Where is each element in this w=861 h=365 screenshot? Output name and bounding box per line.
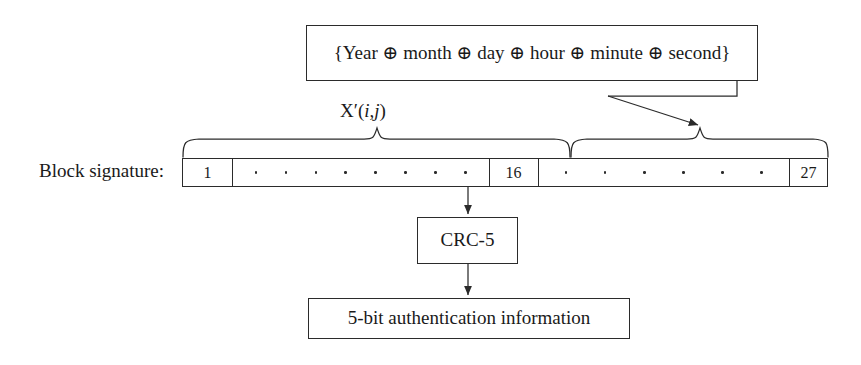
ellipsis-dot xyxy=(565,171,568,174)
brace-timestamp-segment xyxy=(571,128,828,157)
brace-x-prime xyxy=(183,128,570,157)
ellipsis-dot xyxy=(344,171,347,174)
signature-cell-start: 1 xyxy=(183,159,232,186)
x-prime-prefix: X′( xyxy=(340,100,364,121)
signature-cell-end: 27 xyxy=(789,159,827,186)
x-prime-label: X′(i,j) xyxy=(340,100,386,122)
crc5-text: CRC-5 xyxy=(441,230,495,251)
signature-cell-dots-left xyxy=(232,159,489,186)
timestamp-expression-box: {Year ⊕ month ⊕ day ⊕ hour ⊕ minute ⊕ se… xyxy=(306,25,758,81)
ellipsis-dot xyxy=(604,171,607,174)
ellipsis-dot xyxy=(464,171,467,174)
ellipsis-dot xyxy=(315,171,318,174)
ellipsis-dot xyxy=(721,171,724,174)
signature-cell-sixteen-value: 16 xyxy=(506,164,522,182)
signature-cell-start-value: 1 xyxy=(204,164,212,182)
ellipsis-dot xyxy=(404,171,407,174)
signature-cell-dots-right xyxy=(538,159,789,186)
ellipsis-dot xyxy=(255,171,258,174)
authentication-output-text: 5-bit authentication information xyxy=(348,308,591,329)
signature-cell-end-value: 27 xyxy=(801,164,817,182)
ellipsis-dot xyxy=(374,171,377,174)
figure-canvas: {Year ⊕ month ⊕ day ⊕ hour ⊕ minute ⊕ se… xyxy=(0,0,861,365)
block-signature-row: 1 16 27 xyxy=(182,158,828,187)
timestamp-arrow xyxy=(608,96,698,125)
ellipsis-dot xyxy=(434,171,437,174)
timestamp-connector-line xyxy=(608,81,737,96)
timestamp-expression-text: {Year ⊕ month ⊕ day ⊕ hour ⊕ minute ⊕ se… xyxy=(334,43,731,64)
block-signature-label: Block signature: xyxy=(39,160,164,182)
authentication-output-box: 5-bit authentication information xyxy=(308,298,630,339)
signature-cell-sixteen: 16 xyxy=(489,159,538,186)
x-prime-suffix: ) xyxy=(380,100,386,121)
ellipsis-dot xyxy=(760,171,763,174)
ellipsis-dot xyxy=(643,171,646,174)
crc5-box: CRC-5 xyxy=(417,217,518,264)
ellipsis-dot xyxy=(285,171,288,174)
ellipsis-dot xyxy=(682,171,685,174)
